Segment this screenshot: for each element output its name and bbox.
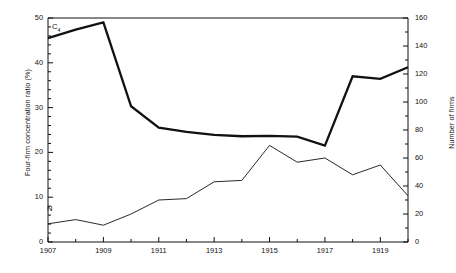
- y-axis-tick-label-right: 140: [415, 41, 441, 50]
- y-axis-tick-label-right: 100: [415, 97, 441, 106]
- x-axis-tick-label: 1909: [88, 246, 118, 255]
- y-axis-tick-label-right: 60: [415, 153, 441, 162]
- y-axis-tick-label-left: 0: [19, 237, 43, 246]
- x-axis-tick-label: 1913: [199, 246, 229, 255]
- axis-ticks: [48, 18, 408, 242]
- y-axis-tick-label-left: 50: [19, 13, 43, 22]
- x-axis-tick-label: 1919: [365, 246, 395, 255]
- y-axis-tick-label-left: 30: [19, 103, 43, 112]
- y-axis-tick-label-left: 20: [19, 147, 43, 156]
- series-line-n: [48, 145, 408, 225]
- x-axis-tick-label: 1915: [255, 246, 285, 255]
- figure-caption: [18, 262, 438, 273]
- y-axis-tick-label-right: 40: [415, 181, 441, 190]
- x-axis-tick-label: 1911: [144, 246, 174, 255]
- y-axis-tick-label-left: 10: [19, 192, 43, 201]
- y-axis-tick-label-right: 160: [415, 13, 441, 22]
- data-series-group: [48, 22, 408, 225]
- y-axis-tick-label-right: 120: [415, 69, 441, 78]
- y-axis-tick-label-right: 80: [415, 125, 441, 134]
- x-axis-tick-label: 1907: [33, 246, 63, 255]
- y-axis-tick-label-left: 40: [19, 58, 43, 67]
- y-axis-tick-label-right: 0: [415, 237, 441, 246]
- series-line-c4: [48, 22, 408, 145]
- x-axis-tick-label: 1917: [310, 246, 340, 255]
- axes-frame: [48, 18, 408, 242]
- y-axis-tick-label-right: 20: [415, 209, 441, 218]
